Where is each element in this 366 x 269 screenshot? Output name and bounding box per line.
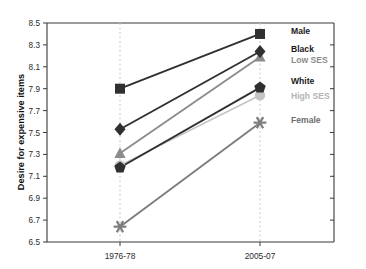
series-label-white: White: [291, 76, 315, 86]
y-tick-label: 7.3: [29, 150, 41, 159]
y-tick-label: 6.9: [29, 194, 41, 203]
y-tick-label: 7.5: [29, 129, 41, 138]
series-label-black: Black: [291, 44, 314, 54]
y-tick-label: 8.1: [29, 63, 41, 72]
square-marker: [115, 84, 125, 94]
y-axis-title: Desire for expensive items: [16, 74, 26, 190]
x-tick-label: 1976-78: [105, 251, 136, 261]
y-tick-label: 7.9: [29, 85, 41, 94]
series-label-female: Female: [291, 115, 321, 125]
y-tick-label: 7.7: [29, 107, 41, 116]
y-tick-label: 8.5: [29, 19, 41, 28]
slope-chart: 8.58.38.17.97.77.57.37.16.96.76.5 1976-7…: [0, 0, 366, 269]
series-label-low-ses: Low SES: [291, 55, 328, 65]
chart-canvas: 8.58.38.17.97.77.57.37.16.96.76.5 1976-7…: [0, 0, 366, 269]
y-tick-label: 6.7: [29, 216, 41, 225]
data-point-square: [255, 29, 265, 39]
data-point-square: [115, 84, 125, 94]
y-tick-label: 7.1: [29, 172, 41, 181]
y-tick-label: 8.3: [29, 41, 41, 50]
x-tick-label: 2005-07: [245, 251, 276, 261]
series-label-high-ses: High SES: [291, 91, 330, 101]
y-tick-label: 6.5: [29, 238, 41, 247]
square-marker: [255, 29, 265, 39]
series-label-male: Male: [291, 26, 310, 36]
